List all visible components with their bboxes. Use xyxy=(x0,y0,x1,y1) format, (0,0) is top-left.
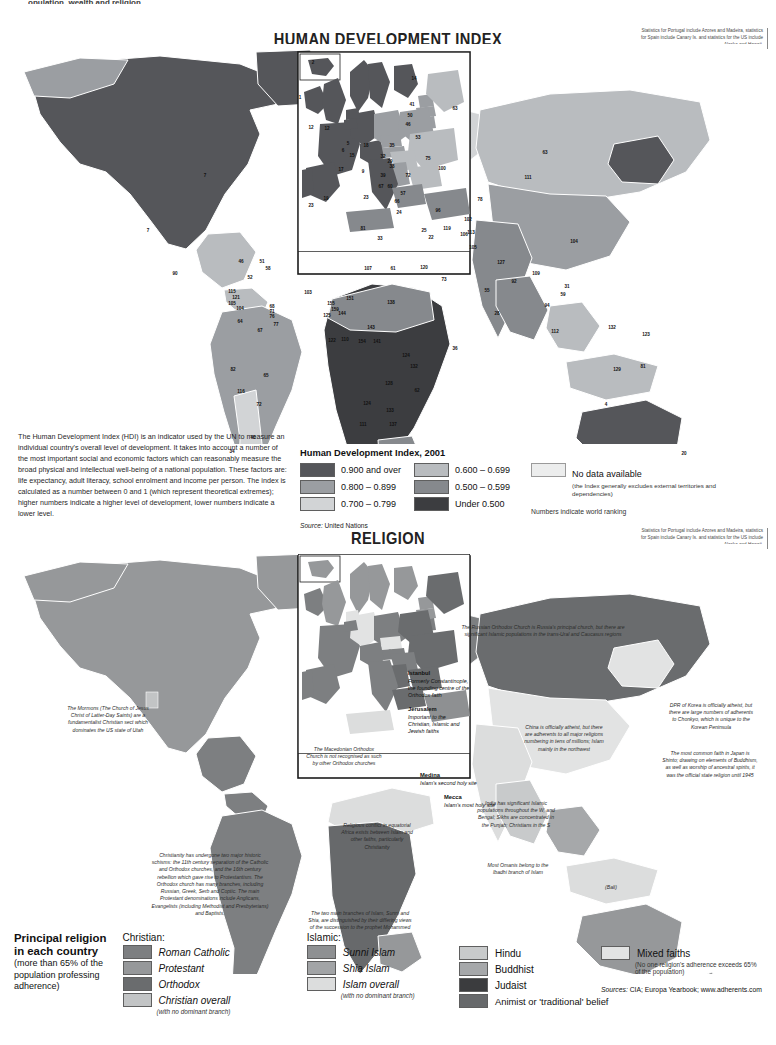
legend-label: 0.800 – 0.899 xyxy=(341,482,396,492)
hdi-rank-number: 14 xyxy=(411,76,416,81)
hdi-rank-number: 59 xyxy=(560,292,565,297)
hdi-rank-number: 9 xyxy=(362,169,365,174)
hdi-rank-number: 81 xyxy=(640,364,645,369)
callout-russian-orthodox: The Russian Orthodox Church is Russia's … xyxy=(460,624,626,638)
hdi-rank-number: 32 xyxy=(380,154,385,159)
legend-swatch xyxy=(414,480,449,494)
religion-sources: Sources: CIA; Europa Yearbook; www.adher… xyxy=(601,985,762,994)
hdi-rank-number: 18 xyxy=(363,143,368,148)
hdi-rank-number: 133 xyxy=(386,408,394,413)
hdi-europe-inset[interactable] xyxy=(298,52,470,252)
legend-item: Roman Catholic xyxy=(123,945,297,959)
hdi-rank-number: 19 xyxy=(323,196,328,201)
legend-group-christian: Christian: Roman Catholic Protestant Ort… xyxy=(123,932,297,1017)
legend-swatch xyxy=(307,961,336,975)
hdi-rank-number: 116 xyxy=(237,389,244,394)
sources-value: CIA; Europa Yearbook; www.adherents.com xyxy=(630,986,762,993)
hdi-rank-number: 60 xyxy=(387,184,392,189)
sources-prefix: Sources: xyxy=(601,986,628,993)
hdi-rank-number: 81 xyxy=(360,226,365,231)
legend-item: Mixed faiths xyxy=(601,946,762,960)
hdi-rank-number: 57 xyxy=(400,191,405,196)
callout-china-atheist: China is officially atheist, but there a… xyxy=(522,724,606,753)
legend-item: 0.800 – 0.899 xyxy=(300,480,401,494)
legend-label: Hindu xyxy=(495,948,521,959)
legend-sublabel: (the Index generally excludes external t… xyxy=(572,482,722,498)
region-netherlands xyxy=(346,610,360,622)
city-note: Important to the Christian, Islamic and … xyxy=(408,714,460,734)
region-portugal xyxy=(302,168,314,198)
hdi-rank-number: 72 xyxy=(405,173,410,178)
hdi-rank-number: 102 xyxy=(464,217,472,222)
legend-swatch xyxy=(531,463,566,477)
hdi-rank-number: 155 xyxy=(327,301,335,306)
hdi-rank-number: 53 xyxy=(415,135,420,140)
callout-islam-branches: The two main branches of Islam, Sunni an… xyxy=(308,910,412,932)
hdi-rank-number: 94 xyxy=(544,303,549,308)
hdi-legend-title: Human Development Index, 2001 xyxy=(300,448,766,458)
hdi-rank-number: 113 xyxy=(467,230,474,235)
hdi-rank-number: 119 xyxy=(443,226,450,231)
hdi-rank-number: 65 xyxy=(263,373,268,378)
region-portugal xyxy=(302,670,314,700)
callout-dpr-korea: DPR of Korea is officially atheist, but … xyxy=(668,702,754,731)
city-label-istanbul: IstanbulFormerly Constantinople, the fou… xyxy=(408,670,470,699)
callout-omanis-ibadhi: Most Omanis belong to the Ibadhi branch … xyxy=(480,862,556,876)
hdi-rank-number: 120 xyxy=(420,265,428,270)
callout-mormons: The Mormons (The Church of Jesus Christ … xyxy=(60,705,156,734)
legend-label: Shia Islam xyxy=(343,963,390,974)
legend-label: Animist or 'traditional' belief xyxy=(495,996,609,1007)
legend-swatch xyxy=(601,946,630,960)
hdi-rank-number: 24 xyxy=(396,210,401,215)
callout-japan-shinto: The most common faith in Japan is Shinto… xyxy=(662,750,758,779)
legend-label: No data available xyxy=(572,469,642,479)
legend-item: Under 0.500 xyxy=(414,497,510,511)
hdi-rank-number: 76 xyxy=(269,314,274,319)
hdi-rank-number: 109 xyxy=(532,271,540,276)
hdi-rank-number: 104 xyxy=(570,239,578,244)
hdi-rank-number: 122 xyxy=(328,338,336,343)
legend-label: 0.900 and over xyxy=(341,465,401,475)
legend-label: Protestant xyxy=(159,963,205,974)
hdi-rank-number: 17 xyxy=(338,167,343,172)
city-label-medina: MedinaIslam's second holy site xyxy=(420,772,482,787)
hdi-rank-number: 7 xyxy=(147,228,150,233)
hdi-rank-number: 103 xyxy=(304,290,312,295)
legend-group-other: Hindu Buddhist Judaist Animist or 'tradi… xyxy=(459,946,579,1010)
hdi-rank-number: 12 xyxy=(324,126,329,131)
hdi-rank-number: 100 xyxy=(438,166,446,171)
hdi-rank-number: 28 xyxy=(494,311,499,316)
legend-label: Judaist xyxy=(495,980,527,991)
legend-swatch xyxy=(459,978,488,992)
hdi-rank-number: 36 xyxy=(452,346,457,351)
hdi-rank-number: 132 xyxy=(410,364,418,369)
region-north-africa-inset xyxy=(346,710,394,734)
hdi-rank-number: 1 xyxy=(299,95,302,100)
hdi-legend-column-1: 0.900 and over 0.800 – 0.899 0.700 – 0.7… xyxy=(300,463,401,511)
hdi-rank-number: 23 xyxy=(363,195,368,200)
hdi-rank-number: 82 xyxy=(230,367,235,372)
hdi-rank-number: 111 xyxy=(359,422,366,427)
legend-swatch xyxy=(123,993,152,1007)
hdi-rank-number: 38 xyxy=(389,164,394,169)
hdi-rank-number: 90 xyxy=(172,271,177,276)
hdi-rank-number: 128 xyxy=(385,381,393,386)
hdi-rank-number: 121 xyxy=(232,295,240,300)
legend-swatch xyxy=(414,497,449,511)
city-label-jerusalem: JerusalemImportant to the Christian, Isl… xyxy=(408,706,470,735)
hdi-rank-number: 46 xyxy=(238,259,243,264)
hdi-rank-number: 35 xyxy=(389,143,394,148)
hdi-rank-number: 110 xyxy=(341,337,348,342)
hdi-rank-number: 124 xyxy=(363,401,371,406)
human-development-index-panel: HUMAN DEVELOPMENT INDEX Statistics for P… xyxy=(0,0,776,522)
hdi-rank-number: 25 xyxy=(421,228,426,233)
legend-label: 0.700 – 0.799 xyxy=(341,499,396,509)
hdi-rank-number: 33 xyxy=(377,236,382,241)
callout-bali: (Bali) xyxy=(596,884,626,891)
legend-item: 0.900 and over xyxy=(300,463,401,477)
hdi-rank-number: 62 xyxy=(414,388,419,393)
hdi-rank-number: 144 xyxy=(338,311,346,316)
city-note: Islam's most holy site xyxy=(444,802,495,808)
legend-label: 0.500 – 0.599 xyxy=(455,482,510,492)
legend-swatch xyxy=(459,994,488,1008)
